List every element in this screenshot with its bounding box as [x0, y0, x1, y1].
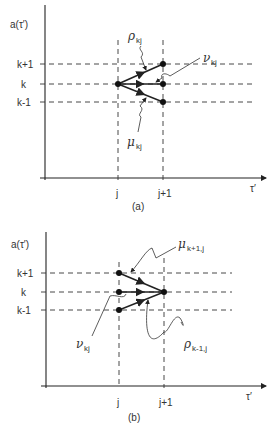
tick-k: k [21, 287, 27, 298]
svg-text:μ: μ [127, 135, 135, 149]
svg-text:kj: kj [136, 36, 142, 45]
annotation-nu-kj-b: ν kj [76, 294, 126, 353]
arrow-rho [139, 300, 144, 302]
y-axis-label: a(τ′) [11, 239, 29, 250]
tick-j: j [116, 397, 119, 408]
svg-text:kj: kj [84, 344, 90, 353]
panel-b: a(τ′) k+1 k k-1 j j+1 τ′ (b) μ k+1,j ν k… [11, 232, 266, 423]
svg-text:ρ: ρ [183, 337, 191, 351]
annotation-nu-kj: ν kj [156, 51, 217, 82]
caption-b: (b) [128, 412, 140, 423]
annotation-mu-k1j: μ k+1,j [131, 237, 204, 272]
node-j1-k [161, 289, 167, 295]
y-axis-label: a(τ′) [10, 19, 28, 30]
svg-text:ρ: ρ [127, 29, 135, 43]
node-j1-km1 [160, 99, 166, 105]
tick-j-plus-1: j+1 [158, 397, 173, 408]
tick-j: j [115, 188, 118, 199]
panel-a: a(τ′) k+1 k k-1 j j+1 τ′ (a) ρ kj ν kj [10, 5, 266, 212]
node-j-k [116, 289, 122, 295]
node-j-km1 [116, 307, 122, 313]
tick-k-plus-1: k+1 [17, 268, 34, 279]
figure-canvas: a(τ′) k+1 k k-1 j j+1 τ′ (a) ρ kj ν kj [0, 0, 278, 435]
svg-text:k+1,j: k+1,j [187, 244, 204, 253]
tick-k-minus-1: k-1 [17, 97, 31, 108]
annotation-mu-kj: μ kj [127, 98, 146, 151]
tick-j-plus-1: j+1 [157, 188, 172, 199]
x-axis-label: τ′ [246, 391, 252, 402]
arrow-rho [139, 72, 144, 74]
svg-text:kj: kj [211, 58, 217, 67]
arrow-mu [139, 281, 144, 283]
svg-text:k-1,j: k-1,j [192, 344, 207, 353]
annotation-rho-km1j: ρ k-1,j [147, 300, 208, 353]
node-j-k [115, 81, 121, 87]
node-j1-k [160, 81, 166, 87]
tick-k-minus-1: k-1 [17, 305, 31, 316]
node-j-k1 [116, 270, 122, 276]
node-j1-k1 [160, 61, 166, 67]
svg-text:ν: ν [76, 337, 83, 351]
x-axis-label: τ′ [250, 183, 256, 194]
tick-k-plus-1: k+1 [17, 59, 34, 70]
caption-a: (a) [132, 201, 144, 212]
svg-text:μ: μ [178, 237, 186, 251]
tick-k: k [21, 79, 27, 90]
arrow-mu [139, 92, 144, 94]
svg-text:kj: kj [136, 142, 142, 151]
svg-text:ν: ν [203, 51, 210, 65]
